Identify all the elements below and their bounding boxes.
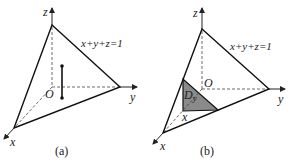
y-axis-label: y: [129, 90, 136, 104]
caption-b: (b): [200, 144, 214, 158]
plane-label: x+y+z=1: [229, 40, 272, 52]
figure-b: z y x O Dy x x+y+z=1 (b): [153, 6, 285, 158]
origin-label: O: [204, 76, 213, 90]
z-axis-label: z: [42, 5, 48, 19]
region-label-main: D: [183, 88, 193, 102]
z-axis-label: z: [192, 6, 198, 20]
figure-a: z y x O x+y+z=1 (a): [4, 5, 137, 158]
region-label-subscript: y: [192, 93, 197, 103]
y-axis-label: y: [277, 92, 284, 106]
plane-label: x+y+z=1: [80, 37, 123, 49]
segment-top-point: [60, 64, 64, 68]
segment-bottom-point: [60, 96, 64, 100]
x-axis-label: x: [9, 135, 16, 149]
origin-label: O: [45, 87, 54, 101]
caption-a: (a): [55, 144, 68, 158]
x-axis-label: x: [159, 139, 166, 153]
diagram-canvas: z y x O x+y+z=1 (a) z y x O Dy x x+y+z=1…: [0, 0, 290, 164]
cross-section-x-label: x: [181, 110, 188, 124]
